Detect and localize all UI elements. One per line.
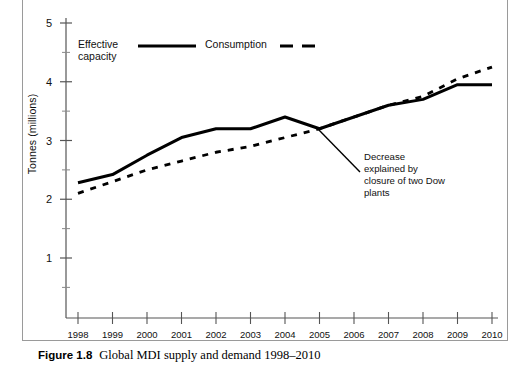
annotation-text-line-1: Decrease [364, 151, 405, 162]
legend: Effective capacity Consumption [78, 38, 322, 62]
legend-label-consumption: Consumption [205, 38, 267, 50]
y-tick-label: 1 [46, 252, 52, 264]
x-tick-label: 2007 [378, 329, 399, 340]
chart-svg: 12345 1998199920002001200220032004200520… [0, 0, 528, 340]
y-tick-label: 2 [46, 193, 52, 205]
x-tick-label: 2003 [240, 329, 261, 340]
x-tick-label: 2006 [343, 329, 364, 340]
x-tick-label: 2010 [481, 329, 502, 340]
annotation-text-line-4: plants [364, 187, 390, 198]
figure-caption-text: Global MDI supply and demand 1998–2010 [99, 348, 320, 362]
y-axis-title: Tonnes (millions) [26, 64, 38, 204]
legend-label-effective-capacity-line1: Effective [78, 38, 118, 50]
x-tick-group: 1998199920002001200220032004200520062007… [67, 312, 502, 340]
legend-label-effective-capacity-line2: capacity [78, 50, 117, 62]
x-tick-label: 2008 [412, 329, 433, 340]
y-tick-label: 4 [46, 76, 52, 88]
y-tick-group: 12345 [46, 17, 72, 287]
x-tick-label: 2001 [171, 329, 192, 340]
x-tick-label: 2005 [309, 329, 330, 340]
figure-page: 12345 1998199920002001200220032004200520… [0, 0, 528, 367]
chart-axes [66, 18, 498, 318]
x-tick-label: 1998 [67, 329, 88, 340]
y-tick-label: 5 [46, 17, 52, 29]
x-tick-label: 2000 [136, 329, 157, 340]
annotation-leader-line [318, 129, 360, 172]
decrease-annotation: Decrease explained by closure of two Dow… [318, 129, 445, 198]
caption-divider [22, 340, 508, 341]
annotation-text-line-3: closure of two Dow [364, 175, 445, 186]
figure-caption: Figure 1.8Global MDI supply and demand 1… [38, 348, 320, 363]
y-tick-label: 3 [46, 135, 52, 147]
series-line-effective-capacity [78, 85, 492, 183]
x-tick-label: 1999 [102, 329, 123, 340]
x-tick-label: 2002 [205, 329, 226, 340]
figure-caption-label: Figure 1.8 [38, 349, 92, 361]
annotation-text-line-2: explained by [364, 163, 418, 174]
x-tick-label: 2004 [274, 329, 295, 340]
x-tick-label: 2009 [447, 329, 468, 340]
line-chart: 12345 1998199920002001200220032004200520… [0, 0, 528, 340]
